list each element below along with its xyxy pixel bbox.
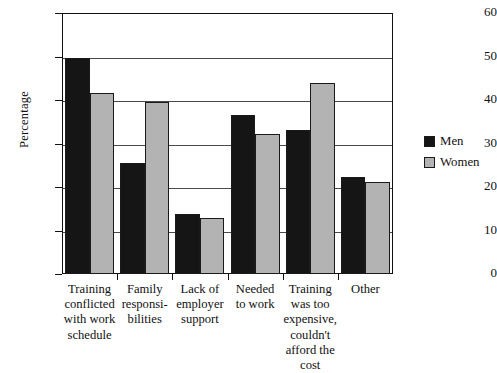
x-tick-3 xyxy=(283,274,284,280)
y-tick-label-0: 0 xyxy=(453,265,497,281)
gridline-40 xyxy=(63,101,392,102)
gridline-10 xyxy=(63,232,392,233)
x-label-line: Other xyxy=(332,282,399,297)
legend-item-women: Women xyxy=(424,152,494,173)
y-tick-60 xyxy=(55,13,62,14)
x-label-line: cost xyxy=(277,358,344,373)
legend-label-men: Men xyxy=(440,134,463,149)
plot-area xyxy=(62,13,393,274)
y-tick-label-50: 50 xyxy=(453,48,497,64)
x-tick-4 xyxy=(338,274,339,280)
y-tick-label-60: 60 xyxy=(453,4,497,20)
gridline-50 xyxy=(63,58,392,59)
y-tick-label-10: 10 xyxy=(453,222,497,238)
x-tick-1 xyxy=(172,274,173,280)
x-label-line: support xyxy=(166,312,233,327)
legend-label-women: Women xyxy=(440,155,479,170)
x-label-line: was too xyxy=(277,297,344,312)
x-tick-0 xyxy=(117,274,118,280)
x-label-line: expensive, xyxy=(277,312,344,327)
legend-item-men: Men xyxy=(424,131,494,152)
x-axis-labels: Trainingconflictedwith workscheduleFamil… xyxy=(62,282,393,365)
y-tick-30 xyxy=(55,144,62,145)
x-category-label-5: Other xyxy=(332,282,399,297)
y-tick-10 xyxy=(55,231,62,232)
x-label-line: schedule xyxy=(56,328,123,343)
y-tick-50 xyxy=(55,57,62,58)
y-tick-40 xyxy=(55,100,62,101)
x-label-line: couldn't xyxy=(277,328,344,343)
y-tick-0 xyxy=(55,274,62,275)
x-label-line: afford the xyxy=(277,343,344,358)
gridline-30 xyxy=(63,145,392,146)
x-tick-2 xyxy=(228,274,229,280)
y-axis-title: Percentage xyxy=(17,60,32,180)
women-swatch-icon xyxy=(424,157,435,168)
y-tick-label-20: 20 xyxy=(453,178,497,194)
gridline-20 xyxy=(63,188,392,189)
y-tick-label-40: 40 xyxy=(453,91,497,107)
men-swatch-icon xyxy=(424,136,435,147)
legend: Men Women xyxy=(424,131,494,173)
y-tick-20 xyxy=(55,187,62,188)
